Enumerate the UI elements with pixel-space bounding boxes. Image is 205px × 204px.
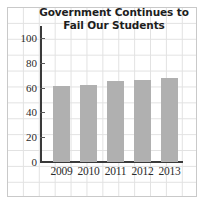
y-axis-tick-20 bbox=[40, 137, 45, 138]
x-axis-label-2009: 2009 bbox=[47, 165, 77, 177]
bar-2012[interactable] bbox=[134, 80, 151, 162]
y-axis-label-100-wrap: 100 bbox=[7, 32, 37, 44]
x-axis-label-2011: 2011 bbox=[101, 165, 131, 177]
y-axis-label-20: 20 bbox=[9, 131, 37, 143]
y-axis-tick-40 bbox=[40, 112, 45, 113]
bar-2013[interactable] bbox=[161, 78, 178, 162]
y-axis-label-40-wrap: 40 bbox=[7, 106, 37, 118]
y-axis-tick-80 bbox=[40, 63, 45, 64]
y-axis-label-60: 60 bbox=[9, 82, 37, 94]
y-axis-label-40: 40 bbox=[9, 106, 37, 118]
y-axis-label-80: 80 bbox=[9, 57, 37, 69]
x-axis-label-2013: 2013 bbox=[155, 165, 185, 177]
y-axis-label-60-wrap: 60 bbox=[7, 82, 37, 94]
bar-2010[interactable] bbox=[80, 85, 97, 162]
y-axis-label-80-wrap: 80 bbox=[7, 57, 37, 69]
y-axis-tick-60 bbox=[40, 88, 45, 89]
x-axis-label-2010: 2010 bbox=[74, 165, 104, 177]
bar-2009[interactable] bbox=[53, 86, 70, 162]
x-axis-label-2012: 2012 bbox=[128, 165, 158, 177]
plot-area: 100 80 60 40 20 0 2009 2010 2011 2012 bbox=[0, 0, 205, 204]
y-axis-label-0: 0 bbox=[9, 156, 37, 168]
chart-figure: Government Continues to Fail Our Student… bbox=[0, 0, 205, 204]
bar-2011[interactable] bbox=[107, 81, 124, 162]
y-axis-tick-100 bbox=[40, 38, 45, 39]
y-axis-label-20-wrap: 20 bbox=[7, 131, 37, 143]
y-axis-label-0-wrap: 0 bbox=[7, 156, 37, 168]
y-axis-line bbox=[40, 26, 42, 163]
y-axis-label-100: 100 bbox=[9, 32, 37, 44]
